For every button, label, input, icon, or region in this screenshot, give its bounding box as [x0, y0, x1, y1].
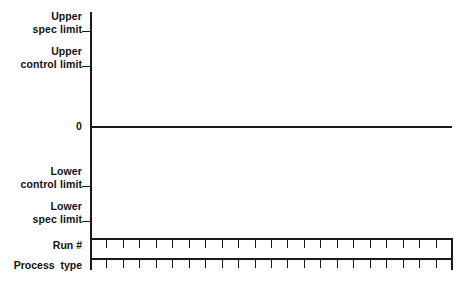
table-cell-divider [205, 259, 206, 268]
control-chart-template: Upper spec limit Upper control limit 0 L… [0, 0, 463, 282]
table-cell-divider [139, 239, 140, 248]
table-cell-divider [403, 259, 404, 268]
table-row-label-run: Run # [0, 239, 82, 251]
axis-label-upper-control-limit: Upper control limit [0, 45, 82, 70]
table-cell-divider [370, 239, 371, 248]
table-cell-divider [156, 259, 157, 268]
table-cell-divider [172, 259, 173, 268]
table-cell-divider [139, 259, 140, 268]
table-cell-divider [320, 259, 321, 268]
axis-label-lower-spec-limit: Lower spec limit [0, 200, 82, 225]
table-cell-divider [156, 239, 157, 248]
axis-label-upper-spec-limit: Upper spec limit [0, 10, 82, 35]
table-cell-divider [386, 239, 387, 248]
table-cell-divider [304, 259, 305, 268]
table-cell-divider [123, 259, 124, 268]
table-cell-divider [419, 239, 420, 248]
axis-label-zero: 0 [0, 120, 82, 133]
table-cell-divider [255, 239, 256, 248]
table-cell-divider [123, 239, 124, 248]
table-cell-divider [304, 239, 305, 248]
table-cell-divider [106, 259, 107, 268]
table-cell-divider [238, 239, 239, 248]
table-cell-divider [271, 259, 272, 268]
axis-tick-upper-spec-limit [82, 31, 91, 32]
table-cell-divider [386, 259, 387, 268]
table-cell-divider [320, 239, 321, 248]
table-cell-divider [287, 239, 288, 248]
table-cell-divider [403, 239, 404, 248]
table-cell-divider [436, 259, 437, 268]
table-right-edge [451, 238, 453, 270]
table-cell-divider [370, 259, 371, 268]
table-cell-divider [337, 239, 338, 248]
axis-tick-upper-control-limit [82, 66, 91, 67]
table-cell-divider [189, 239, 190, 248]
table-cell-divider [172, 239, 173, 248]
table-cell-divider [222, 239, 223, 248]
table-cell-divider [255, 259, 256, 268]
table-cell-divider [106, 239, 107, 248]
table-cell-divider [222, 259, 223, 268]
table-cell-divider [337, 259, 338, 268]
table-cell-divider [271, 239, 272, 248]
table-cell-divider [189, 259, 190, 268]
table-cell-divider [238, 259, 239, 268]
table-cell-divider [287, 259, 288, 268]
axis-label-lower-control-limit: Lower control limit [0, 165, 82, 190]
table-row-label-process-type: Process type [0, 259, 82, 271]
y-axis-line [90, 12, 92, 270]
table-cell-divider [205, 239, 206, 248]
table-cell-divider [353, 259, 354, 268]
axis-tick-lower-control-limit [82, 186, 91, 187]
axis-tick-lower-spec-limit [82, 221, 91, 222]
table-cell-divider [353, 239, 354, 248]
table-cell-divider [436, 239, 437, 248]
zero-centerline [90, 126, 452, 128]
table-cell-divider [419, 259, 420, 268]
